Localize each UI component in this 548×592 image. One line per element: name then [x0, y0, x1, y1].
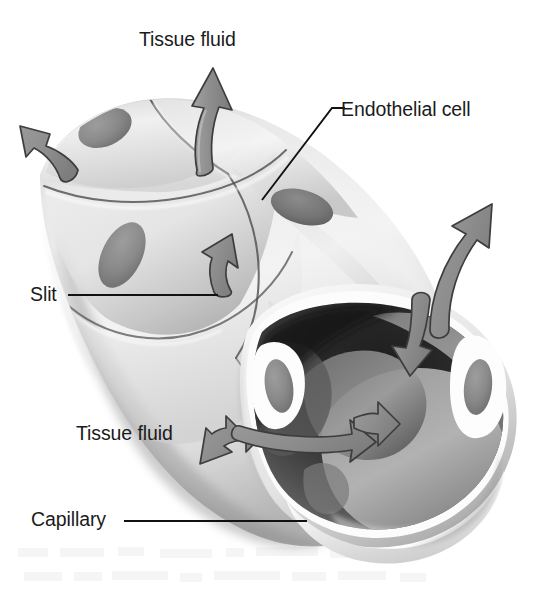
label-slit: Slit	[30, 285, 57, 305]
capillary-illustration	[0, 0, 548, 592]
label-tissue-fluid-bottom: Tissue fluid	[76, 424, 173, 444]
label-tissue-fluid-top: Tissue fluid	[139, 30, 236, 50]
label-endothelial-cell: Endothelial cell	[341, 100, 471, 120]
label-capillary: Capillary	[31, 510, 106, 530]
capillary-diagram-figure: Tissue fluid Endothelial cell Slit Tissu…	[0, 0, 548, 592]
